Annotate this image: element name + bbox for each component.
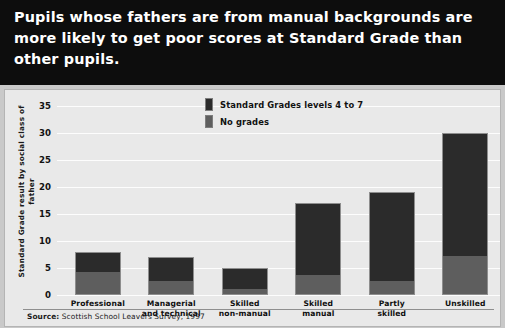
bar-group[interactable]: Professional: [75, 106, 121, 295]
bar-segment-no-grades[interactable]: [76, 272, 120, 294]
gridline: [61, 295, 501, 296]
bar-segment-standard-grades[interactable]: [443, 134, 487, 257]
source-note: Source: Scottish School Leavers Survey, …: [27, 312, 205, 321]
y-axis-tick-label: 0: [11, 290, 51, 300]
chart-frame: Standard Grade result by social class of…: [0, 82, 505, 328]
source-value: Scottish School Leavers Survey, 1997: [59, 312, 204, 321]
bars-group: ProfessionalManagerialand technicalSkill…: [61, 106, 501, 295]
source-label: Source:: [27, 312, 59, 321]
legend-item[interactable]: No grades: [205, 115, 363, 128]
y-axis-tick-label: 20: [11, 182, 51, 192]
bar-segment-standard-grades[interactable]: [223, 269, 267, 290]
x-axis-tick-label: Unskilled: [429, 299, 502, 309]
bar-segment-standard-grades[interactable]: [76, 253, 120, 274]
x-axis-tick-label-line: Skilled: [303, 299, 333, 308]
plot-area: 35302520151050 ProfessionalManagerialand…: [61, 106, 501, 311]
bar-group[interactable]: Skillednon-manual: [222, 106, 268, 295]
stacked-bar[interactable]: [148, 257, 194, 295]
dark-swatch-icon: [205, 98, 213, 111]
gray-swatch-icon: [205, 115, 213, 128]
chart-canvas: Standard Grade result by social class of…: [4, 89, 501, 327]
x-axis-tick-label-line: Managerial: [147, 299, 196, 308]
legend-item-label: Standard Grades levels 4 to 7: [220, 100, 363, 110]
bar-segment-standard-grades[interactable]: [149, 258, 193, 281]
bar-segment-standard-grades[interactable]: [370, 193, 414, 281]
bottom-divider: [9, 326, 501, 327]
y-axis-tick-label: 15: [11, 209, 51, 219]
bar-segment-no-grades[interactable]: [370, 281, 414, 295]
x-axis-tick-label-line: Professional: [71, 299, 125, 308]
stacked-bar[interactable]: [75, 252, 121, 295]
bar-segment-standard-grades[interactable]: [296, 204, 340, 276]
bar-segment-no-grades[interactable]: [443, 256, 487, 294]
bar-segment-no-grades[interactable]: [296, 275, 340, 294]
page-title: Pupils whose fathers are from manual bac…: [14, 7, 484, 70]
legend-item-label: No grades: [220, 117, 269, 127]
chart-page: Pupils whose fathers are from manual bac…: [0, 0, 505, 328]
y-axis-tick-label: 35: [11, 101, 51, 111]
bar-segment-no-grades[interactable]: [149, 281, 193, 295]
stacked-bar[interactable]: [295, 203, 341, 295]
y-axis-tick-label: 10: [11, 236, 51, 246]
x-axis-tick-label-line: Skilled: [230, 299, 260, 308]
bar-group[interactable]: Partlyskilled: [369, 106, 415, 295]
x-axis-tick-label-line: Unskilled: [445, 299, 485, 308]
x-axis-tick-label-line: Partly: [379, 299, 405, 308]
bar-segment-no-grades[interactable]: [223, 289, 267, 294]
chart-legend: Standard Grades levels 4 to 7No grades: [205, 98, 363, 132]
bar-group[interactable]: Skilledmanual: [295, 106, 341, 295]
title-banner: Pupils whose fathers are from manual bac…: [0, 0, 505, 82]
y-axis-tick-label: 5: [11, 263, 51, 273]
stacked-bar[interactable]: [222, 268, 268, 295]
bar-group[interactable]: Managerialand technical: [148, 106, 194, 295]
bar-group[interactable]: Unskilled: [442, 106, 488, 295]
y-axis-tick-label: 25: [11, 155, 51, 165]
y-axis-tick: [57, 295, 61, 296]
source-divider: [23, 309, 494, 310]
y-axis-tick-label: 30: [11, 128, 51, 138]
legend-item[interactable]: Standard Grades levels 4 to 7: [205, 98, 363, 111]
stacked-bar[interactable]: [442, 133, 488, 295]
x-axis-tick-label: Professional: [61, 299, 135, 309]
stacked-bar[interactable]: [369, 192, 415, 295]
